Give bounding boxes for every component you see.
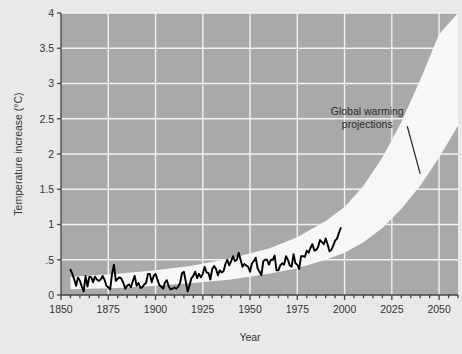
x-tick-label: 2050: [427, 303, 451, 315]
annotation-line-2: projections: [342, 118, 393, 130]
x-tick-label: 2000: [333, 303, 357, 315]
y-tick-label: 3: [48, 77, 54, 89]
annotation-line-1: Global warming: [331, 105, 404, 117]
x-tick-label: 1950: [238, 303, 262, 315]
global-warming-chart: 185018751900192519501975200020252050 0.5…: [0, 0, 462, 354]
x-tick-label: 1875: [97, 303, 121, 315]
x-tick-label: 1900: [144, 303, 168, 315]
y-tick-label: 1.5: [39, 183, 54, 195]
y-tick-label: 2: [48, 148, 54, 160]
y-axis-title: Temperature increase (°C): [12, 92, 24, 215]
y-tick-label: 1: [48, 218, 54, 230]
x-axis-tick-labels: 185018751900192519501975200020252050: [49, 303, 451, 315]
x-tick-label: 1850: [49, 303, 73, 315]
y-tick-label: 4: [48, 7, 54, 19]
y-tick-label: 2.5: [39, 113, 54, 125]
chart-container: 185018751900192519501975200020252050 0.5…: [0, 0, 462, 354]
x-tick-label: 1975: [286, 303, 310, 315]
x-tick-label: 2025: [380, 303, 404, 315]
x-tick-label: 1925: [191, 303, 215, 315]
y-tick-label: 0: [48, 289, 54, 301]
x-axis-title: Year: [239, 331, 261, 343]
y-tick-label: 3.5: [39, 42, 54, 54]
y-tick-label: .5: [45, 254, 54, 266]
